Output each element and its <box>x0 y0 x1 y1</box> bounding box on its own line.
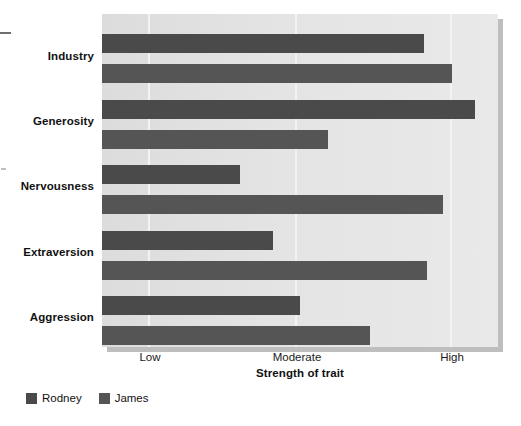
bar-nervousness-james <box>102 195 443 214</box>
bar-generosity-james <box>102 130 328 149</box>
bar-extraversion-rodney <box>102 231 273 250</box>
bar-generosity-rodney <box>102 100 475 119</box>
chart-legend: Rodney James <box>26 392 149 404</box>
bar-aggression-james <box>102 326 370 345</box>
legend-swatch-icon-rodney <box>26 393 37 404</box>
bar-aggression-rodney <box>102 296 300 315</box>
x-axis-title: Strength of trait <box>102 367 498 379</box>
xtick-label-moderate: Moderate <box>273 351 322 363</box>
category-label-generosity: Generosity <box>33 115 94 127</box>
category-label-aggression: Aggression <box>30 311 94 323</box>
category-label-nervousness: Nervousness <box>21 180 94 192</box>
bar-industry-rodney <box>102 34 424 53</box>
legend-item-rodney: Rodney <box>26 392 82 404</box>
plot-area <box>102 14 498 347</box>
bar-industry-james <box>102 64 452 83</box>
bar-extraversion-james <box>102 261 427 280</box>
bar-nervousness-rodney <box>102 165 240 184</box>
legend-label-rodney: Rodney <box>42 392 82 404</box>
xtick-label-low: Low <box>139 351 160 363</box>
legend-swatch-icon-james <box>99 393 110 404</box>
page-edge-mark <box>1 168 6 170</box>
category-label-extraversion: Extraversion <box>23 246 94 258</box>
xtick-label-high: High <box>440 351 464 363</box>
legend-item-james: James <box>99 392 149 404</box>
chart-figure: Industry Generosity Nervousness Extraver… <box>0 0 521 426</box>
page-edge-mark <box>0 32 11 34</box>
category-label-industry: Industry <box>48 50 94 62</box>
legend-label-james: James <box>115 392 149 404</box>
